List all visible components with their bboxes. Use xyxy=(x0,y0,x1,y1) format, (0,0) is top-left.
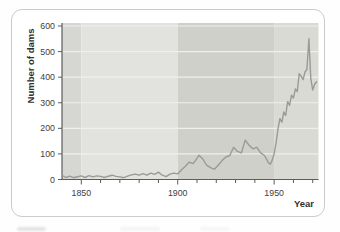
x-tick-label: 1850 xyxy=(71,188,91,198)
chart-generated-layers: 0100200300400500600185019001950 xyxy=(40,21,318,198)
era-band xyxy=(62,23,81,180)
dams-line-chart: 0100200300400500600185019001950 Number o… xyxy=(0,0,340,232)
y-tick-label: 500 xyxy=(40,47,55,57)
cropped-caption-remnant xyxy=(17,227,46,231)
era-band xyxy=(178,23,274,180)
x-tick-label: 1950 xyxy=(264,188,284,198)
y-axis-title: Number of dams xyxy=(25,29,36,104)
cropped-caption-remnant xyxy=(200,227,230,231)
y-tick-label: 100 xyxy=(40,149,55,159)
era-band xyxy=(81,23,177,180)
era-band xyxy=(274,23,318,180)
x-tick-label: 1900 xyxy=(168,188,188,198)
x-axis-title: Year xyxy=(294,198,314,209)
cropped-caption-remnant xyxy=(120,227,160,231)
y-tick-label: 600 xyxy=(40,21,55,31)
y-tick-label: 0 xyxy=(50,175,55,185)
y-tick-label: 400 xyxy=(40,72,55,82)
y-tick-label: 200 xyxy=(40,123,55,133)
y-tick-label: 300 xyxy=(40,98,55,108)
